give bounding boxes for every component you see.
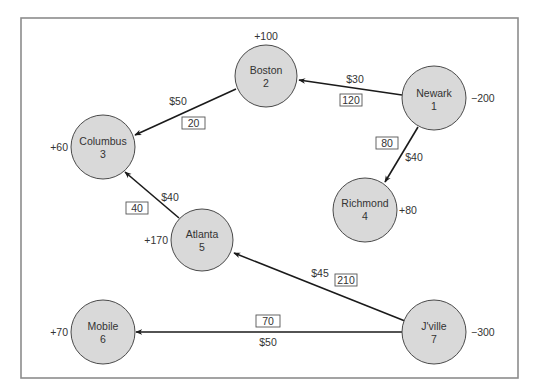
node-name: Richmond [341, 197, 388, 209]
edge-cost: $40 [161, 191, 179, 203]
node-supply: +100 [254, 30, 278, 42]
node-atlanta: Atlanta 5 +170 [144, 209, 233, 271]
node-name: Atlanta [186, 228, 219, 240]
edge-cost: $45 [311, 267, 329, 279]
node-number: 3 [100, 148, 106, 160]
edge-newark-boston: $30 120 [299, 73, 402, 106]
node-mobile: Mobile 6 +70 [50, 300, 135, 364]
node-supply: +80 [399, 204, 417, 216]
node-number: 4 [362, 210, 368, 222]
node-name: Mobile [88, 320, 119, 332]
node-supply: +170 [144, 234, 168, 246]
node-supply: +60 [50, 141, 68, 153]
node-columbus: Columbus 3 +60 [50, 115, 135, 179]
edge-flow: 210 [337, 274, 355, 286]
node-richmond: Richmond 4 +80 [333, 178, 417, 242]
edge-cost: $50 [259, 336, 277, 348]
edge-atlanta-columbus: $40 40 [125, 172, 179, 218]
node-supply: −200 [471, 92, 495, 104]
node-boston: Boston 2 +100 [235, 30, 297, 107]
edge-cost: $40 [405, 151, 423, 163]
node-number: 1 [431, 100, 437, 112]
edge-flow: 80 [381, 137, 393, 149]
node-newark: Newark 1 −200 [402, 66, 495, 130]
node-supply: +70 [50, 326, 68, 338]
node-number: 5 [199, 241, 205, 253]
node-number: 2 [263, 77, 269, 89]
node-jville: J'ville 7 −300 [402, 300, 495, 364]
edge-boston-columbus: $50 20 [135, 89, 236, 135]
edge-jville-atlanta: $45 210 [234, 253, 405, 321]
edge-cost: $50 [169, 95, 187, 107]
node-number: 6 [100, 333, 106, 345]
edge-flow: 120 [342, 94, 360, 106]
node-supply: −300 [471, 326, 495, 338]
network-diagram: $30 120 $40 80 $50 20 $40 40 $45 210 $50… [0, 0, 539, 390]
edge-flow: 70 [262, 315, 274, 327]
node-name: Columbus [79, 135, 126, 147]
edge-newark-richmond: $40 80 [376, 127, 423, 182]
node-name: Newark [416, 87, 452, 99]
node-name: Boston [250, 64, 283, 76]
edge-jville-mobile: $50 70 [136, 315, 402, 348]
node-name: J'ville [421, 320, 447, 332]
edge-flow: 40 [131, 202, 143, 214]
edge-flow: 20 [188, 117, 200, 129]
edge-cost: $30 [346, 73, 364, 85]
node-number: 7 [431, 333, 437, 345]
